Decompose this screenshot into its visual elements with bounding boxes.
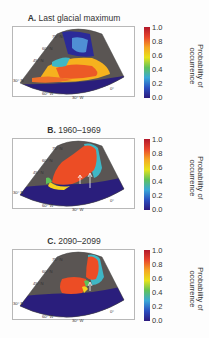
colorbar-tick: 1.0 <box>152 24 162 32</box>
panel-title: B. 1960–1969 <box>12 125 136 135</box>
panel-c: C. 2090–2099 75° N 60° N 45° N 30° N 60°… <box>0 223 209 333</box>
colorbar-label: Probability ofoccurrence <box>188 142 204 214</box>
colorbar-tick: 0.0 <box>152 206 162 214</box>
lat-label: 75° N <box>52 34 63 39</box>
colorbar-label: Probability ofoccurrence <box>188 253 204 325</box>
colorbar-label-line: occurrence <box>188 253 196 325</box>
panel-a: A. Last glacial maximum 75° N 60° N 45° … <box>0 0 209 110</box>
colorbar-tick: 0.8 <box>152 150 162 158</box>
lat-label: 45° N <box>33 58 44 63</box>
panel-title-text: Last glacial maximum <box>39 13 121 23</box>
colorbar-label-line: Probability of <box>196 30 204 102</box>
panel-title: A. Last glacial maximum <box>12 13 136 23</box>
colorbar-tick: 0.4 <box>152 289 162 297</box>
colorbar-tick: 0.0 <box>152 317 162 325</box>
lon-label: 60° W <box>42 203 53 208</box>
lat-label: 60° N <box>42 269 53 274</box>
map-a: 75° N 60° N 45° N 30° N 60° W 30° W 0° <box>12 26 135 98</box>
lat-label: 30° N <box>13 190 24 195</box>
colorbar-tick: 1.0 <box>152 247 162 255</box>
panel-title-text: 1960–1969 <box>58 125 101 135</box>
lat-label: 45° N <box>33 281 44 286</box>
panel-title: C. 2090–2099 <box>12 236 136 246</box>
colorbar-tick: 1.0 <box>152 136 162 144</box>
colorbar-label-line: occurrence <box>188 30 196 102</box>
colorbar <box>144 139 150 210</box>
lon-label: 0° <box>110 309 114 314</box>
colorbar-label-line: Probability of <box>196 142 204 214</box>
colorbar-tick: 0.2 <box>152 80 162 88</box>
lat-label: 45° N <box>33 170 44 175</box>
panel-title-text: 2090–2099 <box>58 236 101 246</box>
colorbar <box>144 27 150 98</box>
colorbar-tick: 0.6 <box>152 52 162 60</box>
lon-label: 0° <box>110 86 114 91</box>
lat-label: 75° N <box>52 146 63 151</box>
colorbar-tick: 0.0 <box>152 94 162 102</box>
lon-label: 60° W <box>42 91 53 96</box>
colorbar-tick: 0.4 <box>152 66 162 74</box>
colorbar-tick: 0.4 <box>152 178 162 186</box>
map-c: 75° N 60° N 45° N 30° N 60° W 30° W 0° <box>12 249 135 321</box>
colorbar-tick: 0.6 <box>152 164 162 172</box>
panel-letter: B. <box>47 125 56 135</box>
lat-label: 60° N <box>42 46 53 51</box>
lat-label: 75° N <box>52 257 63 262</box>
lon-label: 30° W <box>72 207 83 212</box>
panel-letter: C. <box>47 236 56 246</box>
colorbar-label-line: Probability of <box>196 253 204 325</box>
panel-b: B. 1960–1969 75° N 60° N 45° N 30° N 60°… <box>0 112 209 222</box>
colorbar-tick: 0.8 <box>152 38 162 46</box>
lon-label: 60° W <box>42 314 53 319</box>
lat-label: 60° N <box>42 158 53 163</box>
lon-label: 30° W <box>72 318 83 323</box>
lat-label: 30° N <box>13 78 24 83</box>
colorbar-label-line: occurrence <box>188 142 196 214</box>
lon-label: 0° <box>110 198 114 203</box>
panel-letter: A. <box>28 13 37 23</box>
map-b: 75° N 60° N 45° N 30° N 60° W 30° W 0° <box>12 138 135 210</box>
lon-label: 30° W <box>72 95 83 100</box>
colorbar-tick: 0.6 <box>152 275 162 283</box>
colorbar-tick: 0.2 <box>152 303 162 311</box>
prob-very-high-north <box>86 257 99 280</box>
lat-label: 30° N <box>13 301 24 306</box>
colorbar-tick: 0.2 <box>152 192 162 200</box>
colorbar <box>144 250 150 321</box>
colorbar-tick: 0.8 <box>152 261 162 269</box>
prob-very-high <box>60 277 87 294</box>
colorbar-label: Probability ofoccurrence <box>188 30 204 102</box>
